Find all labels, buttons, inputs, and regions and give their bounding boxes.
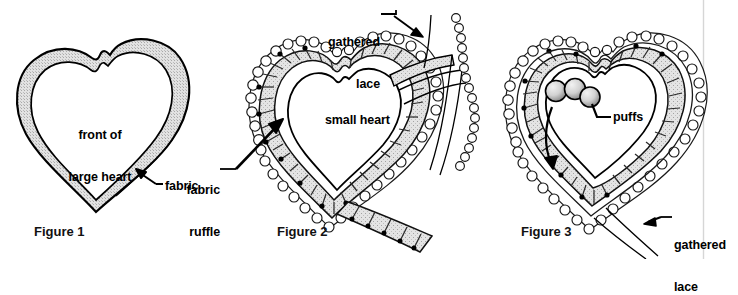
gathered-lace-arrowhead-fig3 xyxy=(644,218,656,226)
caption-figure-2: Figure 2 xyxy=(277,224,328,239)
label-fabric-ruffle-line2: ruffle xyxy=(180,225,220,239)
label-gathered-lace-fig3-line1: gathered xyxy=(674,238,726,252)
free-lace-strip-fig2 xyxy=(452,14,480,171)
label-fabric-ruffle-line1: fabric xyxy=(180,183,220,197)
caption-figure-3: Figure 3 xyxy=(521,224,572,239)
label-fabric-ruffle: fabric ruffle xyxy=(180,155,220,267)
label-gathered-lace-fig2: gathered lace xyxy=(306,7,380,119)
caption-figure-1: Figure 1 xyxy=(34,224,85,239)
label-small-heart: small heart xyxy=(325,113,390,127)
label-puffs: puffs xyxy=(613,110,643,124)
label-gathered-lace-fig3: gathered lace xyxy=(674,210,726,295)
puff-1 xyxy=(546,81,567,102)
gathered-lace-leader-fig2 xyxy=(381,10,396,14)
label-gathered-lace-fig2-line2: lace xyxy=(306,77,380,91)
label-gathered-lace-fig2-line1: gathered xyxy=(306,35,380,49)
label-front-of-large-heart: front of large heart xyxy=(56,100,144,212)
label-front-of-large-heart-line1: front of xyxy=(56,128,144,142)
ruffle-tail-strip xyxy=(337,202,432,252)
label-front-of-large-heart-line2: large heart xyxy=(56,170,144,184)
label-gathered-lace-fig3-line2: lace xyxy=(674,280,726,294)
puff-3 xyxy=(580,87,600,107)
